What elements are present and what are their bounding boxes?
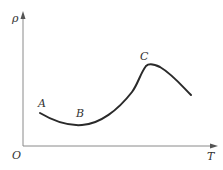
- resistivity-temperature-diagram: ρ T O A B C: [0, 0, 223, 170]
- y-axis-label: ρ: [12, 13, 18, 24]
- graph-svg: [0, 0, 223, 170]
- point-a-label: A: [38, 98, 46, 109]
- x-axis-arrow-icon: [210, 144, 218, 149]
- point-b-label: B: [76, 108, 84, 119]
- y-axis-arrow-icon: [21, 11, 26, 19]
- point-c-label: C: [140, 51, 148, 62]
- x-axis-label: T: [207, 151, 214, 162]
- resistivity-curve: [40, 64, 191, 125]
- origin-label: O: [12, 150, 21, 161]
